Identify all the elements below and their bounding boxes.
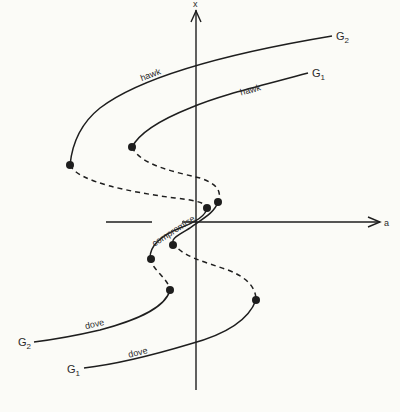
bifurcation-dot	[214, 198, 222, 206]
g1-dove-branch	[84, 300, 256, 368]
g2-dove-branch	[34, 290, 170, 342]
label-dove-g1: dove	[127, 345, 148, 359]
g1-bottom-label: G1	[67, 363, 81, 378]
bifurcation-dot	[203, 204, 211, 212]
x-axis-label: a	[384, 218, 389, 228]
g2-unstable-upper	[70, 165, 207, 208]
bifurcation-dot	[66, 161, 74, 169]
g1-hawk-branch	[132, 73, 308, 147]
bifurcation-diagram: x a G2 G1 G2 G1 hawk hawk compr	[0, 0, 400, 412]
bifurcation-dot	[166, 286, 174, 294]
axes	[106, 10, 380, 390]
curve-g2	[34, 36, 332, 342]
g1-top-label: G1	[312, 67, 326, 82]
g2-unstable-lower	[150, 258, 170, 290]
bifurcation-dot	[147, 255, 155, 263]
bifurcation-dot	[169, 241, 177, 249]
label-hawk-g1: hawk	[239, 82, 262, 97]
bifurcation-points	[66, 143, 260, 304]
y-axis-label: x	[193, 0, 198, 9]
bifurcation-dot	[252, 296, 260, 304]
g2-top-label: G2	[336, 30, 350, 45]
g2-hawk-branch	[70, 36, 332, 165]
g2-bottom-label: G2	[18, 336, 32, 351]
bifurcation-dot	[128, 143, 136, 151]
g1-unstable-lower	[173, 242, 256, 300]
